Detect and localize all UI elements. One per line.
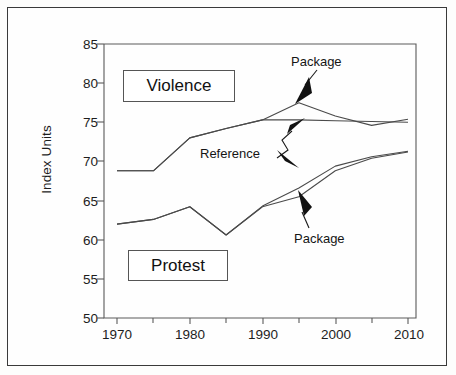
protest-label-box: Protest [128,250,228,281]
y-axis-ticks [97,44,104,318]
arrow-package-bottom [298,190,312,228]
plot-area [0,0,456,375]
callout-package-bottom: Package [294,231,345,246]
violence-label-box: Violence [123,70,235,102]
chart-figure: Index Units 85 80 75 70 65 60 55 50 1970… [0,0,456,375]
violence-reference-line [117,120,408,171]
callout-package-top: Package [291,54,342,69]
x-axis-ticks [117,318,408,324]
arrow-reference [277,118,305,168]
arrow-package-top [295,70,317,104]
callout-reference: Reference [200,146,260,161]
protest-label-text: Protest [151,256,205,276]
violence-label-text: Violence [147,76,212,96]
